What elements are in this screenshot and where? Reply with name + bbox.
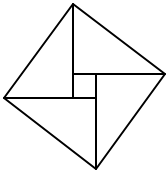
- pythagorean-diagram: [0, 0, 168, 179]
- outer-square: [4, 4, 165, 169]
- inner-lines: [4, 4, 165, 169]
